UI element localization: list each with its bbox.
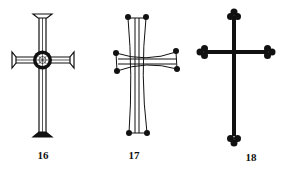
cross-18 xyxy=(197,9,276,147)
cross-17 xyxy=(113,14,180,136)
cross-16 xyxy=(12,14,74,137)
label-18: 18 xyxy=(246,151,258,163)
crosses-figure: 16 17 xyxy=(0,0,284,170)
label-16: 16 xyxy=(38,149,50,161)
label-17: 17 xyxy=(129,149,141,161)
